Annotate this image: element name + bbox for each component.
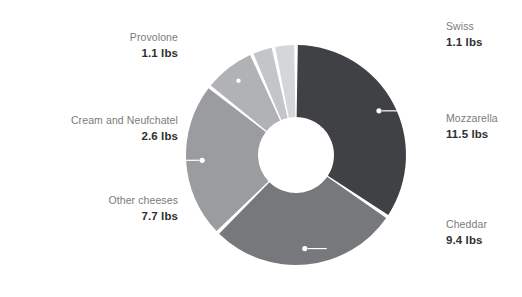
leader-dot-mozzarella	[376, 108, 381, 113]
slice-label-other-cheeses-name: Other cheeses	[108, 194, 178, 208]
slice-label-provolone-value: 1.1 lbs	[130, 46, 178, 61]
donut-slice-group	[186, 45, 406, 265]
leader-dot-cheddar	[302, 246, 307, 251]
slice-label-cheddar[interactable]: Cheddar 9.4 lbs	[446, 218, 487, 248]
slice-label-provolone[interactable]: Provolone 1.1 lbs	[130, 31, 178, 61]
slice-label-cheddar-name: Cheddar	[446, 218, 487, 232]
slice-label-mozzarella-name: Mozzarella	[446, 112, 498, 126]
leader-dot-other-cheeses	[200, 158, 205, 163]
donut-chart-figure: Provolone 1.1 lbs Cream and Neufchatel 2…	[0, 0, 522, 297]
slice-label-swiss[interactable]: Swiss 1.1 lbs	[446, 20, 483, 50]
leader-dot-cream-and-neufchatel	[236, 78, 240, 82]
slice-label-cheddar-value: 9.4 lbs	[446, 233, 487, 248]
donut-chart-svg	[0, 0, 522, 297]
slice-label-mozzarella[interactable]: Mozzarella 11.5 lbs	[446, 112, 498, 142]
slice-label-other-cheeses-value: 7.7 lbs	[108, 209, 178, 224]
slice-label-provolone-name: Provolone	[130, 31, 178, 45]
slice-label-cream-and-neufchatel[interactable]: Cream and Neufchatel 2.6 lbs	[71, 114, 178, 144]
slice-label-swiss-value: 1.1 lbs	[446, 35, 483, 50]
slice-label-swiss-name: Swiss	[446, 20, 483, 34]
slice-label-cream-and-neufchatel-value: 2.6 lbs	[71, 129, 178, 144]
slice-label-other-cheeses[interactable]: Other cheeses 7.7 lbs	[108, 194, 178, 224]
slice-label-mozzarella-value: 11.5 lbs	[446, 127, 498, 142]
slice-label-cream-and-neufchatel-name: Cream and Neufchatel	[71, 114, 178, 128]
